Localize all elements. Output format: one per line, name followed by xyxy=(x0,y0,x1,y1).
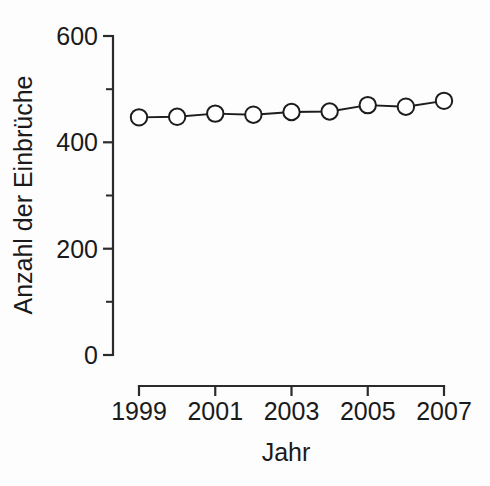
y-tick-label-0: 0 xyxy=(84,341,98,369)
x-axis-title: Jahr xyxy=(262,438,311,466)
x-tick-label-1999: 1999 xyxy=(111,397,167,425)
data-point-marker xyxy=(360,97,376,113)
x-tick-label-2005: 2005 xyxy=(340,397,396,425)
x-tick-label-2001: 2001 xyxy=(187,397,243,425)
x-axis-major-ticks xyxy=(139,386,444,396)
data-point-marker xyxy=(245,106,261,122)
line-chart-canvas: 600 400 200 0 Anzahl der Einbrüche 1999 … xyxy=(0,0,490,486)
y-tick-label-400: 400 xyxy=(56,128,98,156)
data-point-marker xyxy=(398,99,414,115)
data-point-marker xyxy=(436,93,452,109)
data-point-marker xyxy=(283,104,299,120)
y-axis-title: Anzahl der Einbrüche xyxy=(9,75,37,314)
data-point-marker xyxy=(131,109,147,125)
data-point-marker xyxy=(169,109,185,125)
y-tick-label-200: 200 xyxy=(56,235,98,263)
data-point-marker xyxy=(321,103,337,119)
data-point-marker xyxy=(207,105,223,121)
x-tick-label-2003: 2003 xyxy=(264,397,320,425)
series-markers-group xyxy=(131,93,452,126)
y-tick-label-600: 600 xyxy=(56,22,98,50)
chart-figure: 600 400 200 0 Anzahl der Einbrüche 1999 … xyxy=(0,0,490,486)
x-tick-label-2007: 2007 xyxy=(416,397,472,425)
